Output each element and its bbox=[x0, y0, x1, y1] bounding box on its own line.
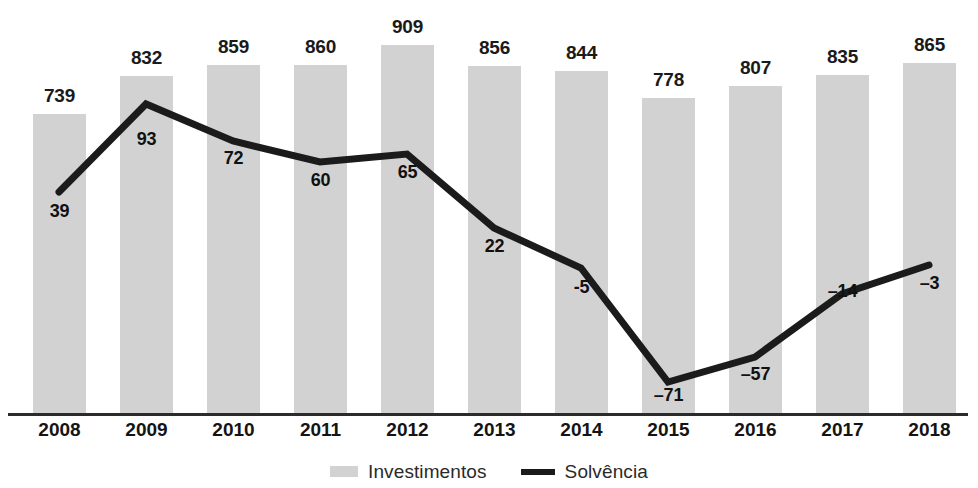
line-value-label-2012: 65 bbox=[381, 162, 434, 183]
bar-2010 bbox=[207, 65, 260, 413]
line-value-label-2014: -5 bbox=[555, 277, 608, 298]
x-tick-2016: 2016 bbox=[729, 419, 782, 441]
legend-label-investimentos: Investimentos bbox=[368, 461, 487, 483]
x-tick-2011: 2011 bbox=[294, 419, 347, 441]
line-value-label-2009: 93 bbox=[120, 129, 173, 150]
solvency-investment-chart: 739832859860909856844778807835865 399372… bbox=[0, 0, 978, 488]
bar-value-label-2014: 844 bbox=[555, 42, 608, 64]
line-value-label-2011: 60 bbox=[294, 170, 347, 191]
line-value-label-2013: 22 bbox=[468, 236, 521, 257]
bar-2009 bbox=[120, 76, 173, 413]
bar-2017 bbox=[816, 75, 869, 413]
x-tick-2013: 2013 bbox=[468, 419, 521, 441]
bar-2008 bbox=[33, 114, 86, 413]
bar-value-label-2017: 835 bbox=[816, 46, 869, 68]
x-tick-2008: 2008 bbox=[33, 419, 86, 441]
bar-value-label-2010: 859 bbox=[207, 36, 260, 58]
x-tick-2015: 2015 bbox=[642, 419, 695, 441]
x-tick-2018: 2018 bbox=[903, 419, 956, 441]
chart-legend: Investimentos Solvência bbox=[0, 455, 978, 488]
bar-2012 bbox=[381, 45, 434, 413]
x-axis-baseline bbox=[8, 413, 968, 416]
line-value-label-2008: 39 bbox=[33, 201, 86, 222]
bar-swatch-icon bbox=[330, 466, 358, 477]
x-tick-2017: 2017 bbox=[816, 419, 869, 441]
plot-area: 739832859860909856844778807835865 399372… bbox=[0, 0, 978, 420]
line-value-label-2010: 72 bbox=[207, 148, 260, 169]
x-axis-tick-labels: 2008200920102011201220132014201520162017… bbox=[0, 419, 978, 451]
bar-2018 bbox=[903, 63, 956, 413]
line-value-label-2016: –57 bbox=[729, 364, 782, 385]
x-tick-2009: 2009 bbox=[120, 419, 173, 441]
bar-value-label-2015: 778 bbox=[642, 69, 695, 91]
line-value-label-2015: –71 bbox=[642, 385, 695, 406]
x-tick-2012: 2012 bbox=[381, 419, 434, 441]
bar-value-label-2012: 909 bbox=[381, 16, 434, 38]
bar-2011 bbox=[294, 65, 347, 413]
bar-2015 bbox=[642, 98, 695, 413]
legend-item-solvencia[interactable]: Solvência bbox=[521, 461, 648, 483]
bar-value-label-2013: 856 bbox=[468, 37, 521, 59]
bar-value-label-2016: 807 bbox=[729, 57, 782, 79]
bar-value-label-2018: 865 bbox=[903, 34, 956, 56]
line-swatch-icon bbox=[521, 469, 555, 475]
bar-value-label-2009: 832 bbox=[120, 47, 173, 69]
x-tick-2014: 2014 bbox=[555, 419, 608, 441]
x-tick-2010: 2010 bbox=[207, 419, 260, 441]
legend-label-solvencia: Solvência bbox=[565, 461, 648, 483]
bar-2014 bbox=[555, 71, 608, 413]
line-value-label-2018: –3 bbox=[903, 273, 956, 294]
bar-value-label-2011: 860 bbox=[294, 36, 347, 58]
legend-item-investimentos[interactable]: Investimentos bbox=[330, 461, 487, 483]
line-value-label-2017: –14 bbox=[816, 281, 869, 302]
bar-value-label-2008: 739 bbox=[33, 85, 86, 107]
